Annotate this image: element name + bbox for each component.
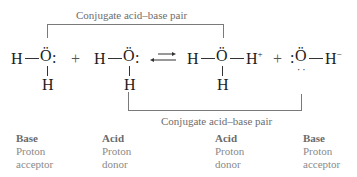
- role-label-base-1: Base Proton acceptor: [16, 132, 53, 171]
- bond: [129, 66, 130, 76]
- top-bracket-horizontal: [47, 24, 224, 25]
- atom-h: H−: [325, 51, 342, 67]
- lone-pair-bottom: ··: [297, 64, 308, 75]
- role-line1: Proton: [16, 145, 53, 158]
- atom-o: Ö: [216, 48, 228, 64]
- atom-h: H: [187, 51, 199, 67]
- role-line2: donor: [102, 158, 131, 171]
- lone-pair: :: [135, 50, 139, 66]
- negative-charge: −: [337, 49, 342, 59]
- top-bracket-label: Conjugate acid–base pair: [76, 9, 187, 21]
- plus-sign: +: [71, 51, 80, 67]
- role-line1: Proton: [303, 145, 340, 158]
- bond: [201, 58, 215, 59]
- plus-sign: +: [273, 51, 282, 67]
- atom-h: H+: [246, 51, 263, 67]
- role-label-acid-2: Acid Proton donor: [215, 132, 244, 171]
- atom-h: H: [42, 77, 54, 93]
- atom-h: H: [94, 51, 106, 67]
- bond: [25, 58, 39, 59]
- positive-charge: +: [258, 49, 263, 59]
- role-title: Base: [303, 132, 340, 145]
- atom-o: Ö: [123, 48, 135, 64]
- role-title: Base: [16, 132, 53, 145]
- top-bracket-right-leg: [223, 24, 224, 38]
- bottom-bracket-left-leg: [128, 92, 129, 111]
- bottom-bracket-horizontal: [128, 110, 302, 111]
- atom-h: H: [124, 77, 136, 93]
- role-label-acid-1: Acid Proton donor: [102, 132, 131, 171]
- bottom-bracket-right-leg: [301, 94, 302, 111]
- role-label-base-2: Base Proton acceptor: [303, 132, 340, 171]
- role-line2: donor: [215, 158, 244, 171]
- role-title: Acid: [102, 132, 131, 145]
- bond: [230, 58, 244, 59]
- role-line1: Proton: [102, 145, 131, 158]
- bond: [222, 66, 223, 76]
- bond: [108, 58, 122, 59]
- role-title: Acid: [215, 132, 244, 145]
- atom-h: H: [11, 51, 23, 67]
- role-line1: Proton: [215, 145, 244, 158]
- lone-pair: :: [52, 50, 56, 66]
- bond: [47, 66, 48, 76]
- atom-h: H: [217, 77, 229, 93]
- atom-o: Ö: [295, 48, 307, 64]
- bottom-bracket-label: Conjugate acid–base pair: [161, 115, 272, 127]
- role-line2: acceptor: [16, 158, 53, 171]
- bond: [309, 58, 323, 59]
- atom-o: Ö: [40, 48, 52, 64]
- lone-pair: :: [290, 50, 294, 66]
- role-line2: acceptor: [303, 158, 340, 171]
- top-bracket-left-leg: [47, 24, 48, 38]
